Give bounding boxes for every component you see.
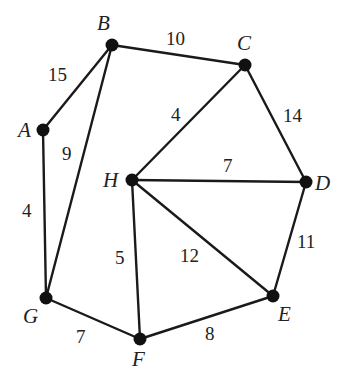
edge-weight-h-e: 12 bbox=[180, 245, 199, 266]
node-label-b: B bbox=[97, 11, 110, 35]
edge-weight-h-d: 7 bbox=[223, 155, 233, 176]
node-g bbox=[40, 292, 53, 305]
node-label-g: G bbox=[23, 304, 38, 328]
edge-g-f bbox=[46, 298, 140, 339]
graph-diagram: 15109441471251178ABCDEFGH bbox=[0, 0, 339, 383]
node-label-h: H bbox=[102, 168, 120, 192]
edge-weight-g-f: 7 bbox=[76, 326, 86, 347]
edges-group bbox=[43, 45, 306, 339]
node-label-f: F bbox=[131, 347, 145, 371]
edge-weight-b-c: 10 bbox=[166, 28, 185, 49]
edge-weight-a-g: 4 bbox=[22, 200, 32, 221]
node-a bbox=[37, 124, 50, 137]
node-label-e: E bbox=[277, 302, 291, 326]
edge-h-d bbox=[132, 180, 306, 182]
edge-weight-b-g: 9 bbox=[62, 143, 72, 164]
edge-weight-c-h: 4 bbox=[171, 104, 181, 125]
edge-weight-c-d: 14 bbox=[283, 105, 303, 126]
node-label-d: D bbox=[314, 171, 330, 195]
node-h bbox=[126, 174, 139, 187]
edge-weight-h-f: 5 bbox=[115, 247, 125, 268]
edge-weight-f-e: 8 bbox=[205, 323, 215, 344]
node-c bbox=[239, 59, 252, 72]
node-f bbox=[134, 333, 147, 346]
node-b bbox=[106, 39, 119, 52]
node-label-c: C bbox=[237, 31, 252, 55]
node-d bbox=[300, 176, 313, 189]
node-label-a: A bbox=[16, 118, 31, 142]
edge-weight-d-e: 11 bbox=[297, 231, 315, 252]
edge-h-f bbox=[132, 180, 140, 339]
node-e bbox=[267, 290, 280, 303]
edge-weight-a-b: 15 bbox=[48, 64, 67, 85]
nodes-group bbox=[37, 39, 313, 346]
edge-h-e bbox=[132, 180, 273, 296]
labels-group: 15109441471251178ABCDEFGH bbox=[16, 11, 330, 371]
edge-a-g bbox=[43, 130, 46, 298]
